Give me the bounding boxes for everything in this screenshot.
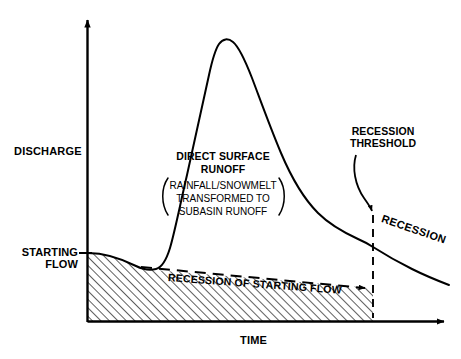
starting-flow-label: STARTING FLOW [4,246,78,271]
runoff-explanation-line-2: TRANSFORMED TO [167,193,279,206]
y-axis-label: DISCHARGE [14,145,82,157]
runoff-explanation-line-3: SUBASIN RUNOFF [167,206,279,219]
runoff-explanation-block: RAINFALL/SNOWMELT TRANSFORMED TO SUBASIN… [167,180,279,218]
direct-surface-runoff-label: DIRECT SURFACE RUNOFF [168,150,278,175]
recession-limb [373,247,449,285]
hydrograph-figure: DISCHARGE TIME STARTING FLOW RECESSION T… [0,0,461,359]
x-axis-label: TIME [240,334,267,346]
right-parenthesis-glyph [279,178,284,215]
recession-threshold-label: RECESSION THRESHOLD [341,125,425,149]
recession-threshold-callout-arrow [354,155,372,211]
runoff-explanation-line-1: RAINFALL/SNOWMELT [167,180,279,193]
